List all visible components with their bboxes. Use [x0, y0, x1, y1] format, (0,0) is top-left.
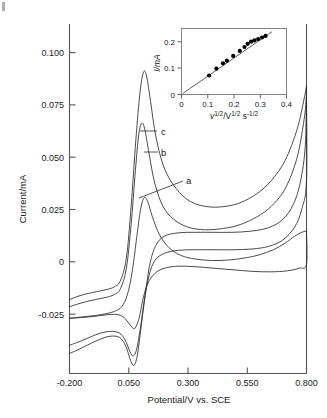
inset-data-point [256, 37, 260, 41]
inset-y-tick-label-1: 0.1 [164, 64, 176, 73]
curve-label-b: b [161, 147, 166, 158]
inset-data-point [225, 59, 229, 63]
inset-data-point [242, 45, 246, 49]
cv-curve-a-forward [70, 197, 307, 318]
inset-xlabel-tail: s [240, 111, 247, 121]
y-tick-label-3: 0.025 [41, 205, 64, 215]
y-axis-title: Current/mA [17, 174, 28, 223]
inset-data-point [207, 73, 211, 77]
cv-curves-group [70, 71, 308, 365]
y-ticks [70, 53, 76, 315]
inset-data-point [263, 34, 267, 38]
cv-curve-c-reverse [70, 86, 307, 365]
inset-data-point [231, 54, 235, 58]
inset-x-tick-label-1: 0.1 [202, 100, 214, 109]
x-tick-label-1: 0.050 [118, 378, 141, 388]
curve-label-a: a [186, 175, 192, 186]
y-tick-label-4: 0 [59, 257, 64, 267]
y-tick-label-1: 0.075 [41, 100, 64, 110]
cv-curve-b-reverse [70, 96, 307, 356]
x-tick-label-2: 0.300 [177, 378, 200, 388]
y-tick-label-5: -0.025 [38, 310, 64, 320]
corner-artifact [2, 2, 5, 11]
inset-xlabel-sup3: -1/2 [247, 110, 259, 117]
inset-data-point [221, 61, 225, 65]
inset-y-tick-label-2: 0.2 [164, 38, 176, 47]
x-ticks [70, 368, 307, 374]
figure-container: 0.100 0.075 0.050 0.025 0 -0.025 -0.200 … [0, 0, 327, 418]
x-tick-label-4: 0.800 [295, 378, 318, 388]
cv-figure-svg: 0.100 0.075 0.050 0.025 0 -0.025 -0.200 … [0, 0, 327, 418]
y-tick-label-2: 0.050 [41, 153, 64, 163]
inset-xlabel-sup1: 1/2 [214, 110, 223, 117]
curve-label-c: c [161, 126, 166, 137]
inset-xlabel-sup2: 1/2 [231, 110, 240, 117]
curve-annotations: c b a [139, 126, 192, 199]
inset-x-ticks [182, 95, 287, 99]
cv-curve-b-forward [70, 96, 307, 307]
inset-y-axis-title: I/mA [152, 54, 162, 72]
inset-x-tick-label-4: 0.4 [281, 100, 293, 109]
inset-x-tick-label-3: 0.3 [255, 100, 267, 109]
y-tick-label-0: 0.100 [41, 48, 64, 58]
inset-plot: 0 0.1 0.2 0 0.1 0.2 0.3 0.4 I/mA v1/2/ [152, 29, 293, 122]
inset-y-tick-label-0: 0 [171, 91, 176, 100]
inset-ylabel-text: I/mA [152, 54, 162, 72]
x-tick-label-0: -0.200 [57, 378, 83, 388]
inset-data-point [214, 67, 218, 71]
inset-x-axis-title: v1/2/V1/2 s-1/2 [210, 110, 259, 121]
x-tick-label-3: 0.550 [236, 378, 259, 388]
inset-y-ticks [178, 42, 182, 95]
inset-frame [182, 29, 287, 95]
inset-x-tick-label-2: 0.2 [228, 100, 240, 109]
x-axis-title: Potential/V vs. SCE [148, 394, 231, 405]
inset-x-tick-label-0: 0 [179, 100, 184, 109]
inset-data-point [252, 38, 256, 42]
inset-data-point [238, 49, 242, 53]
